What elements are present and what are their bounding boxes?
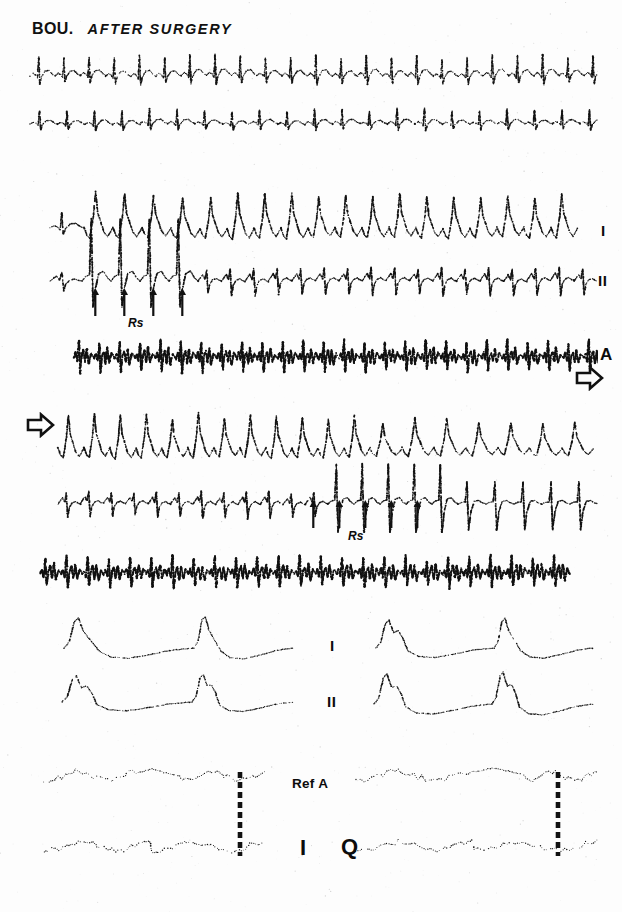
figure-subtitle: AFTER SURGERY <box>88 21 233 37</box>
panel-expanded-right <box>372 604 598 716</box>
lead-label-II-panel1: II <box>598 272 607 289</box>
lead-label-I-panel1: I <box>601 222 606 239</box>
panel-atrial-electrogram-2 <box>26 552 598 594</box>
expanded-left-traces <box>54 604 294 716</box>
continuation-arrow-left <box>26 412 56 442</box>
rs-marker-arrows-panel2 <box>306 500 431 534</box>
lead-label-II-expanded: II <box>327 693 336 710</box>
baseline-rhythm-traces <box>26 52 598 142</box>
page-title: BOU. <box>32 20 74 38</box>
timing-marker-left <box>236 772 244 856</box>
lead-label-Q: Q <box>341 834 358 860</box>
figure-title: BOU.AFTER SURGERY <box>32 20 232 38</box>
lead-label-ref-a: Ref A <box>292 776 328 791</box>
lead-label-I-expanded: I <box>330 637 335 654</box>
lead-label-I-bottom: I <box>300 835 306 861</box>
lead-label-A: A <box>600 345 612 365</box>
panel-atrial-electrogram-1 <box>26 336 598 378</box>
continuation-arrow-right <box>575 365 605 395</box>
expanded-right-traces <box>372 604 598 716</box>
atrial-electrogram-1-trace <box>26 336 598 378</box>
timing-marker-right <box>554 772 562 856</box>
rs-label-panel1: Rs <box>128 316 144 330</box>
rs-label-panel2: Rs <box>348 529 364 543</box>
panel-expanded-left <box>54 604 294 716</box>
panel-baseline-rhythm <box>26 52 598 142</box>
figure-page: BOU.AFTER SURGERY I II Rs <box>0 0 622 912</box>
atrial-electrogram-2-trace <box>26 552 598 594</box>
